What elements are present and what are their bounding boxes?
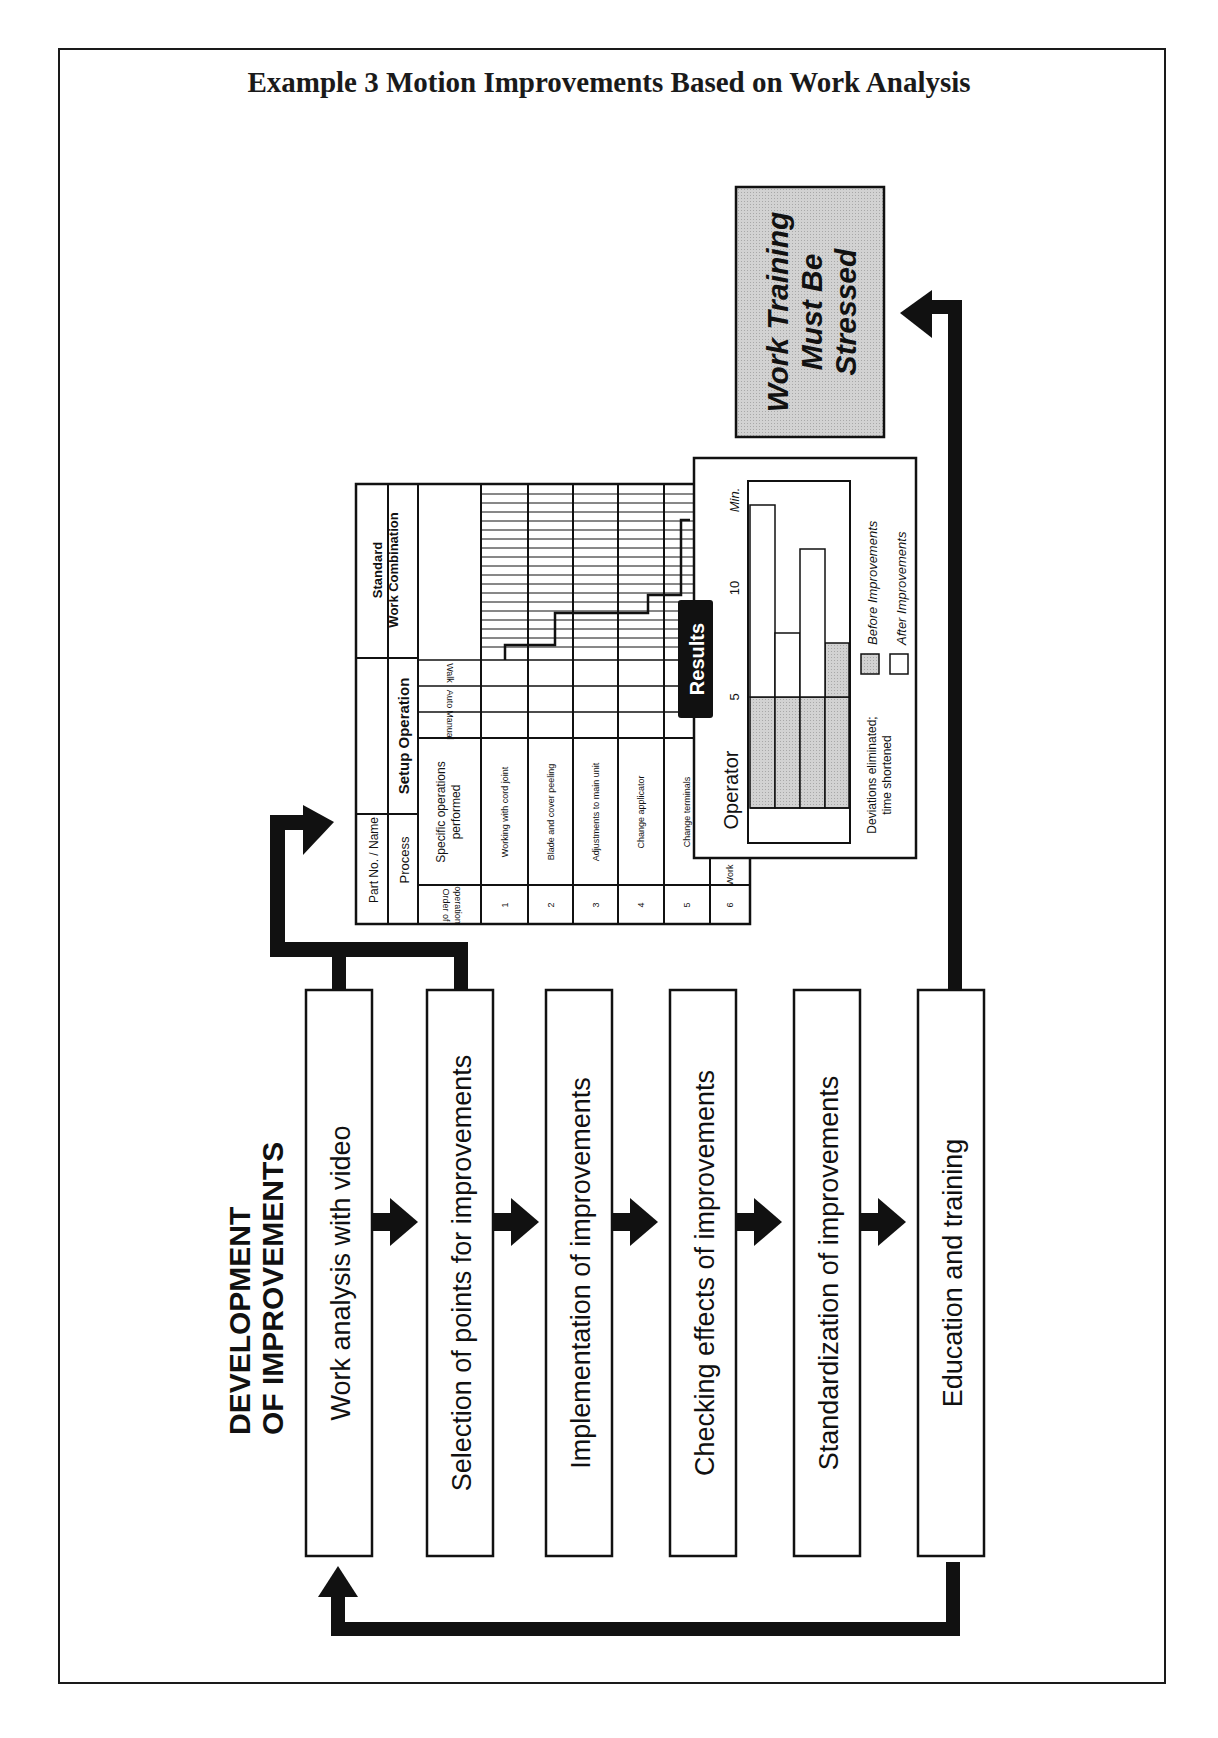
row-4-op: Change applicator: [636, 775, 646, 848]
step-4: Checking effects of improvements: [670, 990, 736, 1556]
arrow-right-icon: [373, 1198, 418, 1246]
diagram-canvas: DEVELOPMENT OF IMPROVEMENTS Work analysi…: [0, 0, 1218, 1738]
row-3-op: Adjustments to main unit: [591, 762, 601, 861]
row-1-op: Working with cord joint: [500, 766, 510, 857]
row-5-op: Change terminals: [682, 776, 692, 847]
step-2: Selection of points for improvements: [427, 990, 493, 1556]
row-6-op: Work: [725, 864, 735, 885]
row-6-no: 6: [725, 902, 735, 907]
step-3: Implementation of improvements: [546, 990, 612, 1556]
callout-line2: Must Be: [795, 254, 828, 371]
walk-label: Walk: [445, 663, 455, 683]
step-6-label: Education and training: [938, 1139, 968, 1408]
step-4-label: Checking effects of improvements: [690, 1070, 720, 1476]
legend-swatch-after: [890, 654, 908, 674]
tick-5: 5: [727, 693, 742, 700]
step-5-label: Standardization of improvements: [814, 1076, 844, 1471]
callout-line3: Stressed: [829, 248, 862, 375]
row-5-no: 5: [682, 902, 692, 907]
row-4-no: 4: [636, 902, 646, 907]
legend-swatch-before: [861, 654, 879, 674]
part-no-label: Part No. / Name: [367, 817, 381, 903]
step-1-label: Work analysis with video: [326, 1125, 356, 1420]
row-3-no: 3: [591, 902, 601, 907]
order-label-1: Order of: [441, 888, 451, 922]
setup-operation-label: Setup Operation: [395, 678, 412, 795]
row-2-op: Blade and cover peeling: [546, 764, 556, 861]
manual-label: Manual: [445, 710, 455, 740]
heading-line1: DEVELOPMENT: [223, 1207, 256, 1435]
step-3-label: Implementation of improvements: [566, 1077, 596, 1469]
unit-label: Min.: [727, 488, 742, 513]
note-line2: time shortened: [880, 735, 894, 814]
loop-back-arrow: [318, 1562, 960, 1636]
results-badge-label: Results: [686, 623, 708, 695]
standard-label: Standard: [370, 542, 385, 598]
work-combination-label: Work Combination: [386, 512, 401, 627]
row-1-no: 1: [500, 902, 510, 907]
step-2-label: Selection of points for improvements: [447, 1055, 477, 1492]
step-6: Education and training: [918, 990, 984, 1556]
process-label: Process: [397, 836, 412, 883]
order-label-2: operation: [453, 886, 463, 924]
specific-ops-label-1: Specific operations: [434, 761, 448, 862]
tick-10: 10: [727, 581, 742, 595]
callout-box: Work Training Must Be Stressed: [736, 187, 884, 437]
arrow-right-icon: [861, 1198, 906, 1246]
heading-line2: OF IMPROVEMENTS: [256, 1142, 289, 1435]
step-1: Work analysis with video: [306, 990, 372, 1556]
callout-line1: Work Training: [761, 212, 794, 413]
row-2-no: 2: [546, 902, 556, 907]
step-5: Standardization of improvements: [794, 990, 860, 1556]
results-axis-label: Operator: [720, 750, 742, 829]
arrow-right-icon: [494, 1198, 539, 1246]
note-line1: Deviations eliminated;: [865, 716, 879, 833]
flow-heading: DEVELOPMENT OF IMPROVEMENTS: [223, 1142, 289, 1435]
auto-label: Auto: [445, 690, 455, 709]
arrow-right-icon: [737, 1198, 782, 1246]
results-panel: Operator 5 10 Min. Before Improvements A…: [678, 458, 916, 858]
arrow-right-icon: [613, 1198, 658, 1246]
legend-before: Before Improvements: [865, 520, 880, 645]
legend-after: After Improvements: [894, 531, 909, 646]
specific-ops-label-2: performed: [449, 785, 463, 840]
